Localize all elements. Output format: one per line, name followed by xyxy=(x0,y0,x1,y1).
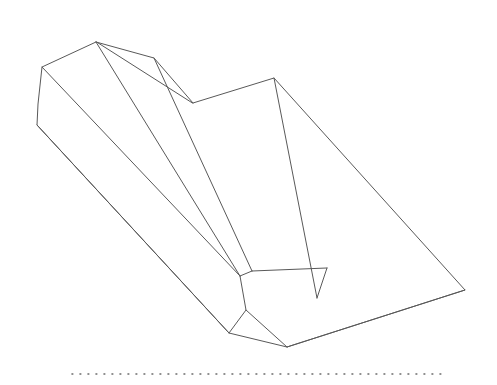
drawing-canvas xyxy=(0,0,497,385)
isometric-wedge-figure xyxy=(0,0,497,385)
